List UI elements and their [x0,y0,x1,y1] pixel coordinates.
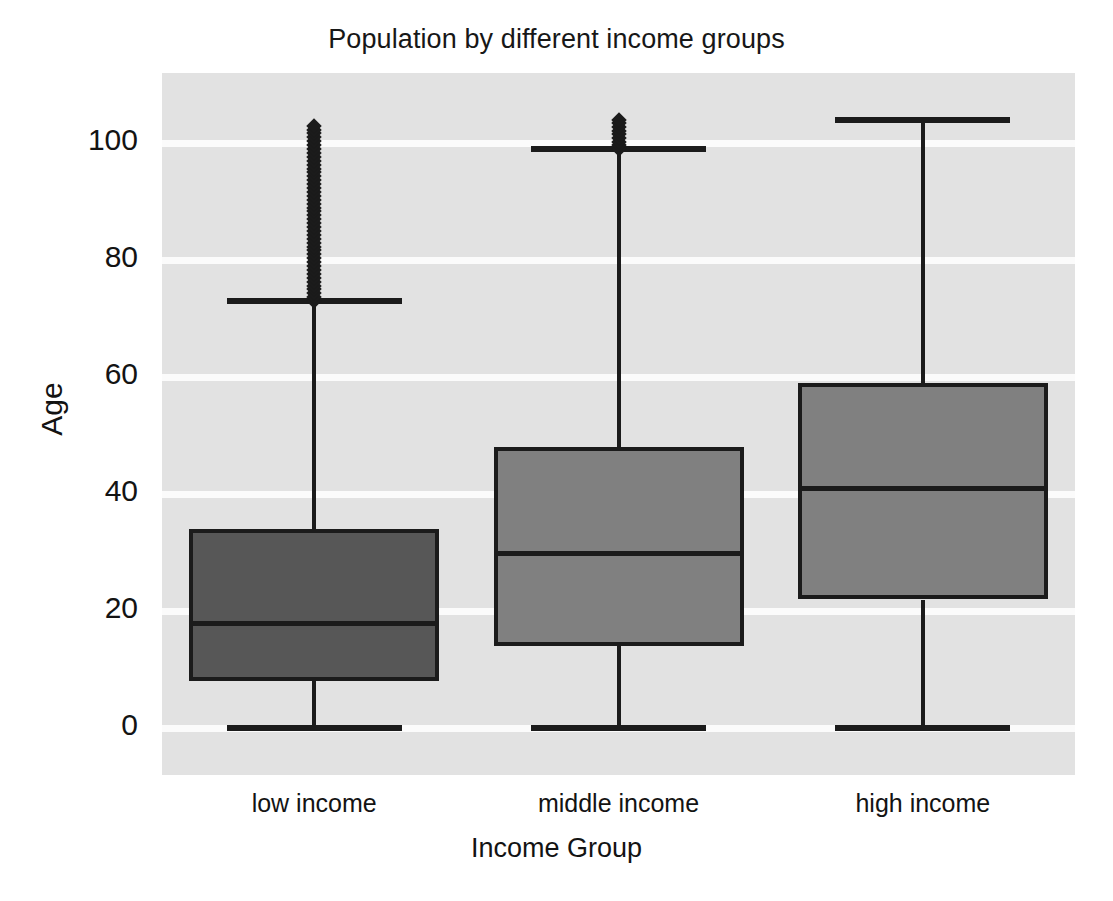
median-line [494,551,744,556]
x-tick-label: high income [773,789,1073,818]
whisker-cap-lower [227,725,402,731]
median-line [798,486,1048,491]
whisker-lower [921,600,925,729]
x-axis-label: Income Group [0,833,1113,864]
y-tick-label: 100 [88,123,138,157]
whisker-upper [312,301,316,529]
y-tick-label: 20 [105,591,138,625]
chart-title: Population by different income groups [0,24,1113,55]
y-tick-label: 80 [105,240,138,274]
whisker-cap-upper [835,117,1010,123]
whisker-upper [921,120,925,383]
whisker-lower [312,681,316,728]
whisker-cap-lower [531,725,706,731]
y-tick-label: 0 [121,708,138,742]
whisker-cap-lower [835,725,1010,731]
x-tick-label: low income [164,789,464,818]
plot-area [162,73,1075,775]
box-iqr [494,447,744,646]
median-line [189,621,439,626]
y-axis-label: Age [35,319,69,499]
chart-figure: Population by different income groups 02… [0,0,1113,901]
whisker-lower [617,646,621,728]
x-tick-label: middle income [469,789,769,818]
box-iqr [189,529,439,681]
whisker-upper [617,149,621,447]
y-tick-label: 60 [105,357,138,391]
y-tick-label: 40 [105,474,138,508]
